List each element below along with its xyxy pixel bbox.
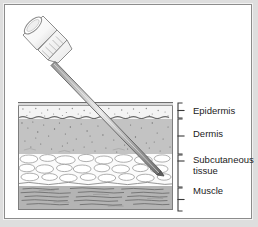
epidermis-texture [19,106,172,119]
figure-canvas: Epidermis Dermis Subcutaneous tissue Mus… [0,0,258,227]
muscle-fiber-texture [19,186,172,209]
label-epidermis: Epidermis [193,106,235,117]
needle-ribbed-collar [38,30,67,61]
layer-epidermis [18,106,173,119]
label-subcutaneous-tissue: Subcutaneous tissue [193,155,254,176]
fat-lobules-texture [19,154,172,186]
needle-tapered-cone [48,40,72,63]
layer-annotations: Epidermis Dermis Subcutaneous tissue Mus… [176,101,258,213]
dermis-texture [19,119,172,154]
layer-dermis [18,119,173,154]
layer-subcutaneous [18,154,173,186]
needle-hub-barrel [22,14,57,50]
skin-cross-section [18,102,173,210]
label-muscle: Muscle [193,186,223,197]
layer-muscle [18,186,173,210]
illustration-frame: Epidermis Dermis Subcutaneous tissue Mus… [4,4,252,219]
label-dermis: Dermis [193,129,223,140]
